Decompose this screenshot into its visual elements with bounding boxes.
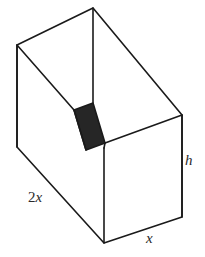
- label-length-variable: x: [35, 189, 43, 205]
- label-length-2x: 2x: [28, 189, 43, 205]
- box-diagram-svg: 2x h x: [0, 0, 205, 257]
- label-height-h: h: [185, 152, 193, 168]
- label-length-coefficient: 2: [28, 189, 36, 205]
- figure-container: 2x h x: [0, 0, 205, 257]
- label-width-x: x: [145, 230, 153, 246]
